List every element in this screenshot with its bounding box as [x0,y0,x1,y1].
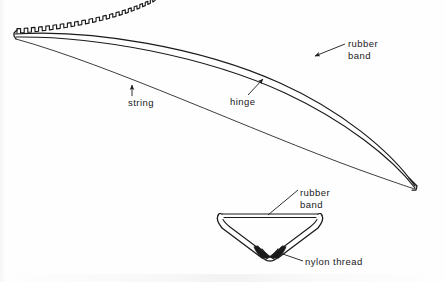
tooth-band-path [17,0,176,33]
leader-hinge [248,79,263,95]
label-rubber-band-bottom-line1: rubber [300,187,330,199]
toothed-rubber-band-edge [17,0,176,33]
label-rubber-band-top-line1: rubber [348,38,378,50]
label-rubber-band-top-line2: band [348,50,378,62]
label-rubber-band-top: rubber band [348,38,378,61]
label-rubber-band-bottom-line2: band [300,199,330,211]
leader-rubber-band-bottom [268,190,298,215]
v-left-corner-cap [218,214,222,216]
label-nylon-thread: nylon thread [305,256,363,267]
v-right-corner-cap [318,214,322,216]
cross-section-v [217,214,323,262]
diagram-page: rubber band string hinge rubber band nyl… [0,0,446,282]
leader-rubber-band-top [315,44,345,56]
wing-assembly [14,0,417,190]
label-rubber-band-bottom: rubber band [300,187,330,210]
label-hinge: hinge [230,96,256,107]
nylon-thread-vertex-left-fill [254,246,270,258]
technical-diagram [0,0,446,282]
label-string: string [128,97,154,108]
string-line [16,39,415,189]
